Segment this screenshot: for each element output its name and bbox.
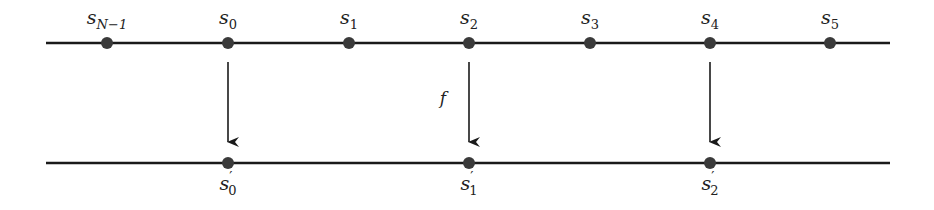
top-node-label: s4 <box>701 6 719 32</box>
top-node-label: s2 <box>460 6 478 32</box>
top-node-label: s1 <box>340 6 358 32</box>
label-base: s <box>581 6 591 28</box>
top-node-dot <box>584 37 596 49</box>
top-node-label: s5 <box>821 6 839 32</box>
label-subscript: N−1 <box>96 17 128 32</box>
bottom-node-label: s′1 <box>460 169 477 198</box>
bottom-node-label: s′2 <box>701 169 718 198</box>
label-base: s <box>821 6 831 28</box>
label-subscript: 1 <box>469 183 477 198</box>
mapping-diagram: sN−1s0s1s2s3s4s5 s′0s′1s′2 f <box>0 0 934 210</box>
label-base: s <box>701 6 711 28</box>
top-node-label: s3 <box>581 6 599 32</box>
label-base: s <box>340 6 350 28</box>
bottom-node-dot <box>463 157 475 169</box>
mapping-arrows <box>228 62 710 142</box>
top-node-dot <box>101 37 113 49</box>
bottom-node-dot <box>222 157 234 169</box>
label-base: s <box>219 6 229 28</box>
bottom-node-dot <box>704 157 716 169</box>
label-subscript: 2 <box>470 17 478 32</box>
label-base: s <box>87 6 97 28</box>
label-base: s <box>460 6 470 28</box>
label-subscript: 0 <box>228 183 236 198</box>
top-node-label: s0 <box>219 6 237 32</box>
label-subscript: 5 <box>831 17 839 32</box>
arrow-label-f: f <box>438 88 449 108</box>
top-node-label: sN−1 <box>87 6 127 32</box>
label-subscript: 0 <box>229 17 237 32</box>
bottom-node-label: s′0 <box>219 169 236 198</box>
top-node-dot <box>222 37 234 49</box>
label-subscript: 3 <box>591 17 599 32</box>
top-node-dot <box>824 37 836 49</box>
label-subscript: 4 <box>711 17 719 32</box>
top-node-dot <box>343 37 355 49</box>
top-node-dot <box>463 37 475 49</box>
label-subscript: 2 <box>710 183 718 198</box>
top-node-dot <box>704 37 716 49</box>
label-subscript: 1 <box>350 17 358 32</box>
